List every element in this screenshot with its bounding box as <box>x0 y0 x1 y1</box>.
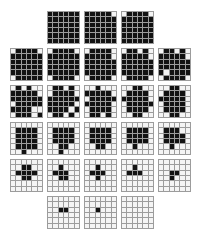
pattern-cell <box>175 107 179 111</box>
pattern-cell <box>96 49 100 53</box>
pattern-cell <box>133 123 137 127</box>
pattern-cell <box>122 144 126 148</box>
pattern-cell <box>69 224 73 228</box>
pattern-cell <box>69 97 73 101</box>
pattern-tile[interactable] <box>158 48 191 81</box>
pattern-cell <box>133 202 137 206</box>
pattern-cell <box>85 218 89 222</box>
pattern-cell <box>180 176 184 180</box>
pattern-cell <box>127 49 131 53</box>
pattern-tile[interactable] <box>47 122 80 155</box>
pattern-cell <box>16 165 20 169</box>
pattern-cell <box>75 218 79 222</box>
pattern-cell <box>59 23 63 27</box>
pattern-cell <box>27 113 31 117</box>
pattern-cell <box>90 86 94 90</box>
pattern-cell <box>69 144 73 148</box>
pattern-cell <box>112 202 116 206</box>
pattern-cell <box>64 218 68 222</box>
pattern-cell <box>101 76 105 80</box>
pattern-cell <box>90 123 94 127</box>
pattern-cell <box>16 139 20 143</box>
pattern-cell <box>27 60 31 64</box>
pattern-cell <box>69 65 73 69</box>
pattern-tile[interactable] <box>84 11 117 44</box>
pattern-cell <box>75 123 79 127</box>
pattern-cell <box>138 181 142 185</box>
pattern-tile[interactable] <box>10 159 43 192</box>
pattern-tile[interactable] <box>84 159 117 192</box>
pattern-cell <box>59 91 63 95</box>
pattern-tile[interactable] <box>47 48 80 81</box>
pattern-tile[interactable] <box>121 122 154 155</box>
pattern-cell <box>53 70 57 74</box>
pattern-cell <box>38 150 42 154</box>
pattern-tile[interactable] <box>121 159 154 192</box>
pattern-cell <box>64 139 68 143</box>
pattern-cell <box>101 218 105 222</box>
pattern-cell <box>149 39 153 43</box>
pattern-cell <box>16 107 20 111</box>
pattern-cell <box>48 187 52 191</box>
pattern-cell <box>112 176 116 180</box>
pattern-cell <box>122 65 126 69</box>
pattern-cell <box>112 39 116 43</box>
pattern-cell <box>48 102 52 106</box>
pattern-cell <box>59 113 63 117</box>
pattern-cell <box>27 76 31 80</box>
pattern-tile[interactable] <box>121 85 154 118</box>
pattern-cell <box>69 54 73 58</box>
pattern-cell <box>22 107 26 111</box>
pattern-cell <box>59 202 63 206</box>
pattern-cell <box>38 187 42 191</box>
pattern-cell <box>186 91 190 95</box>
pattern-cell <box>159 97 163 101</box>
pattern-cell <box>180 150 184 154</box>
pattern-cell <box>75 76 79 80</box>
pattern-tile[interactable] <box>84 122 117 155</box>
pattern-cell <box>122 128 126 132</box>
pattern-tile[interactable] <box>10 85 43 118</box>
pattern-cell <box>112 49 116 53</box>
pattern-cell <box>69 181 73 185</box>
pattern-cell <box>133 49 137 53</box>
pattern-cell <box>143 49 147 53</box>
pattern-cell <box>175 139 179 143</box>
pattern-cell <box>170 49 174 53</box>
pattern-cell <box>101 33 105 37</box>
pattern-cell <box>143 23 147 27</box>
pattern-cell <box>122 97 126 101</box>
pattern-tile[interactable] <box>84 48 117 81</box>
pattern-tile[interactable] <box>158 159 191 192</box>
pattern-tile[interactable] <box>47 11 80 44</box>
pattern-cell <box>175 54 179 58</box>
pattern-cell <box>59 144 63 148</box>
pattern-tile[interactable] <box>84 85 117 118</box>
pattern-tile[interactable] <box>121 196 154 229</box>
pattern-cell <box>101 113 105 117</box>
pattern-tile[interactable] <box>121 11 154 44</box>
pattern-tile[interactable] <box>47 196 80 229</box>
pattern-cell <box>64 150 68 154</box>
pattern-tile[interactable] <box>10 122 43 155</box>
pattern-cell <box>90 208 94 212</box>
pattern-tile[interactable] <box>47 85 80 118</box>
pattern-cell <box>64 171 68 175</box>
pattern-tile[interactable] <box>10 48 43 81</box>
pattern-cell <box>112 86 116 90</box>
pattern-cell <box>186 102 190 106</box>
pattern-cell <box>127 39 131 43</box>
pattern-cell <box>22 123 26 127</box>
pattern-tile[interactable] <box>47 159 80 192</box>
pattern-tile[interactable] <box>84 196 117 229</box>
pattern-tile[interactable] <box>158 85 191 118</box>
pattern-cell <box>149 91 153 95</box>
pattern-cell <box>149 181 153 185</box>
pattern-cell <box>27 181 31 185</box>
pattern-tile[interactable] <box>121 48 154 81</box>
pattern-cell <box>133 134 137 138</box>
pattern-cell <box>122 150 126 154</box>
pattern-cell <box>101 181 105 185</box>
pattern-tile[interactable] <box>158 122 191 155</box>
pattern-cell <box>53 208 57 212</box>
